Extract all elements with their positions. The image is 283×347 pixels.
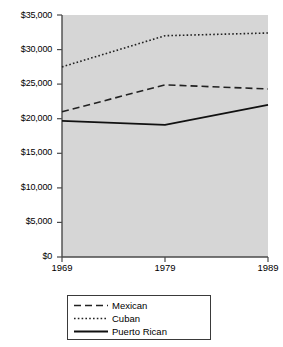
y-tick-label: $25,000 [4, 79, 52, 88]
y-tick-label: $30,000 [4, 45, 52, 54]
x-tick-label: 1979 [145, 262, 185, 273]
line-chart-figure: $35,000 $30,000 $25,000 $20,000 $15,000 … [0, 0, 283, 347]
legend-swatch-dotted-icon [73, 313, 109, 324]
plot-area [62, 15, 268, 257]
x-tick-label: 1989 [248, 262, 283, 273]
legend-item-cuban: Cuban [68, 312, 210, 325]
y-tick-label: $35,000 [4, 11, 52, 20]
legend-label: Cuban [112, 313, 140, 324]
y-tick-label: $15,000 [4, 148, 52, 157]
legend: Mexican Cuban Puerto Rican [67, 295, 211, 340]
y-tick-label: $20,000 [4, 114, 52, 123]
x-axis: 1969 1979 1989 [0, 262, 283, 278]
legend-label: Puerto Rican [112, 326, 167, 337]
legend-item-mexican: Mexican [68, 299, 210, 312]
legend-swatch-dashed-icon [73, 300, 109, 311]
legend-swatch-solid-icon [73, 326, 109, 337]
legend-label: Mexican [112, 300, 147, 311]
x-tick-label: 1969 [42, 262, 82, 273]
y-tick-label: $5,000 [4, 217, 52, 226]
legend-item-puerto-rican: Puerto Rican [68, 325, 210, 338]
y-axis: $35,000 $30,000 $25,000 $20,000 $15,000 … [0, 0, 52, 270]
y-tick-label: $0 [4, 252, 52, 261]
y-tick-label: $10,000 [4, 183, 52, 192]
